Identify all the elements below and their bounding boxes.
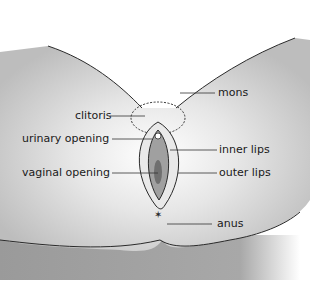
label-inner-lips: inner lips <box>219 144 270 156</box>
anatomy-diagram: ✶ mons clitoris urinary opening vaginal … <box>0 0 313 286</box>
label-outer-lips: outer lips <box>219 167 271 179</box>
label-mons: mons <box>218 87 248 99</box>
label-vaginal-opening: vaginal opening <box>22 167 110 179</box>
label-clitoris: clitoris <box>75 110 112 122</box>
clitoris-shape <box>155 133 161 139</box>
svg-text:✶: ✶ <box>154 209 162 220</box>
label-urinary-opening: urinary opening <box>22 133 109 145</box>
label-anus: anus <box>217 218 243 230</box>
vaginal-opening-shape <box>154 160 162 184</box>
